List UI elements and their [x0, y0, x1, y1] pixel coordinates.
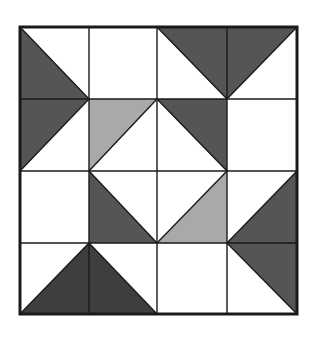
quilt-block-diagram: [0, 0, 315, 344]
